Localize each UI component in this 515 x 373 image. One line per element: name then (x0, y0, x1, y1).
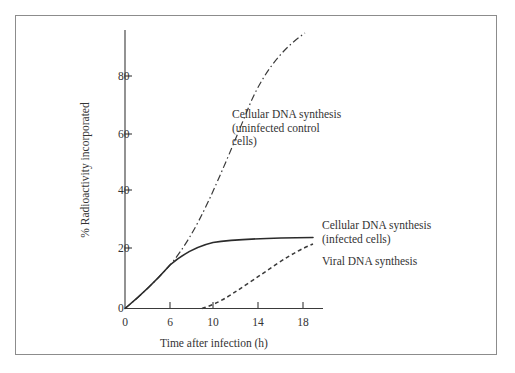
x-tick-label-18: 18 (297, 316, 309, 328)
x-axis-title: Time after infection (h) (160, 337, 268, 349)
series-uninfected-control-line (125, 33, 305, 309)
figure-container: 80 60 40 20 0 0 6 10 14 18 Time after in… (0, 0, 515, 373)
x-tick-label-10: 10 (207, 316, 219, 328)
y-axis-title: % Radioactivity incorporated (79, 102, 91, 237)
x-tick-label-0: 0 (122, 316, 128, 328)
annotation-viral-dna: Viral DNA synthesis (322, 255, 417, 269)
annotation-infected-cells: Cellular DNA synthesis (infected cells) (322, 219, 431, 246)
annotation-uninfected-control: Cellular DNA synthesis (uninfected contr… (232, 108, 341, 149)
series-viral-dna-line (202, 244, 313, 309)
x-tick-label-6: 6 (167, 316, 173, 328)
x-tick-label-14: 14 (252, 316, 264, 328)
series-infected-cells-line (125, 238, 313, 309)
